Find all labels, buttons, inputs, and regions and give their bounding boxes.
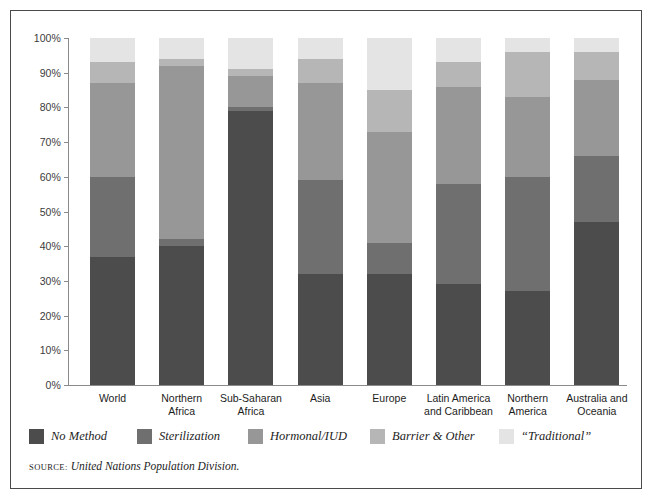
bar-segment	[298, 83, 343, 180]
bar-segment	[298, 274, 343, 385]
bar-segment	[367, 90, 412, 132]
bar-segment	[90, 62, 135, 83]
y-axis-tick-mark	[64, 107, 68, 108]
legend-item: “Traditional”	[499, 425, 591, 447]
legend-swatch	[29, 429, 44, 444]
source-text: United Nations Population Division.	[71, 460, 240, 472]
stacked-bar	[574, 38, 619, 385]
y-axis-tick-mark	[64, 385, 68, 386]
legend-label: Hormonal/IUD	[270, 429, 347, 444]
y-axis-tick-mark	[64, 350, 68, 351]
bar-segment	[436, 184, 481, 285]
bar-segment	[505, 52, 550, 97]
bar-segment	[228, 76, 273, 107]
y-axis-tick-mark	[64, 73, 68, 74]
bar-segment	[436, 87, 481, 184]
bar-segment	[367, 274, 412, 385]
bar-segment	[90, 38, 135, 62]
bar-segment	[298, 180, 343, 274]
bar-segment	[159, 66, 204, 240]
y-axis-tick-mark	[64, 281, 68, 282]
stacked-bar	[298, 38, 343, 385]
bar-segment	[298, 59, 343, 83]
y-axis-tick-label: 50%	[40, 206, 61, 218]
bar-segment	[159, 38, 204, 59]
bar-segment	[505, 97, 550, 177]
legend-swatch	[370, 429, 385, 444]
bar-segment	[574, 38, 619, 52]
y-axis-tick-mark	[64, 212, 68, 213]
y-axis-tick-label: 30%	[40, 275, 61, 287]
stacked-bar	[159, 38, 204, 385]
y-axis-tick-mark	[64, 177, 68, 178]
legend-label: Sterilization	[159, 429, 220, 444]
legend-item: Barrier & Other	[370, 425, 475, 447]
bar-segment	[228, 69, 273, 76]
bar-segment	[228, 111, 273, 385]
bar-segment	[505, 38, 550, 52]
legend-label: No Method	[51, 429, 107, 444]
bar-segment	[436, 284, 481, 385]
bar-segment	[367, 38, 412, 90]
y-axis-line	[68, 38, 69, 386]
bar-segment	[436, 38, 481, 62]
legend-label: Barrier & Other	[392, 429, 475, 444]
bar-segment	[367, 132, 412, 243]
y-axis-tick-label: 40%	[40, 240, 61, 252]
legend-swatch	[248, 429, 263, 444]
plot-area: 0%10%20%30%40%50%60%70%80%90%100% WorldN…	[68, 38, 627, 386]
x-axis-label: Australia andOceania	[554, 392, 640, 417]
bar-segment	[298, 38, 343, 59]
source-note: Source: United Nations Population Divisi…	[29, 460, 239, 472]
bar-segment	[228, 38, 273, 69]
legend-item: No Method	[29, 425, 107, 447]
legend-label: “Traditional”	[521, 429, 591, 444]
legend-swatch	[499, 429, 514, 444]
bar-segment	[159, 246, 204, 385]
bar-segment	[574, 80, 619, 156]
bar-segment	[505, 177, 550, 292]
x-axis-line	[68, 385, 627, 386]
y-axis-tick-label: 20%	[40, 310, 61, 322]
source-label: Source:	[29, 462, 68, 472]
bar-segment	[436, 62, 481, 86]
stacked-bar	[505, 38, 550, 385]
y-axis-tick-mark	[64, 246, 68, 247]
y-axis-tick-label: 90%	[40, 67, 61, 79]
y-axis-tick-label: 80%	[40, 101, 61, 113]
y-axis-tick-label: 100%	[34, 32, 61, 44]
bar-segment	[90, 177, 135, 257]
y-axis-tick-mark	[64, 316, 68, 317]
bar-segment	[90, 257, 135, 385]
bar-segment	[505, 291, 550, 385]
chart-figure: 0%10%20%30%40%50%60%70%80%90%100% WorldN…	[10, 10, 642, 489]
bar-segment	[90, 83, 135, 177]
bar-segment	[159, 59, 204, 66]
stacked-bar	[90, 38, 135, 385]
y-axis-tick-label: 70%	[40, 136, 61, 148]
legend-item: Hormonal/IUD	[248, 425, 347, 447]
stacked-bar	[228, 38, 273, 385]
y-axis-tick-label: 10%	[40, 344, 61, 356]
bar-segment	[574, 222, 619, 385]
y-axis-tick-label: 0%	[46, 379, 61, 391]
stacked-bar	[436, 38, 481, 385]
stacked-bar	[367, 38, 412, 385]
legend-swatch	[137, 429, 152, 444]
bar-segment	[574, 156, 619, 222]
y-axis-tick-mark	[64, 38, 68, 39]
legend-item: Sterilization	[137, 425, 220, 447]
bar-segment	[367, 243, 412, 274]
y-axis-tick-mark	[64, 142, 68, 143]
bar-segment	[159, 239, 204, 246]
bar-segment	[574, 52, 619, 80]
y-axis-tick-label: 60%	[40, 171, 61, 183]
